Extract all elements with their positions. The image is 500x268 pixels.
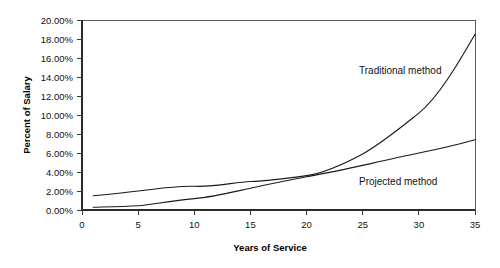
series-label-projected: Projected method	[359, 176, 437, 187]
x-tick-label: 35	[470, 219, 481, 230]
y-tick-label: 14.00%	[41, 72, 74, 83]
y-axis-tick-labels: 20.00% 18.00% 16.00% 14.00% 12.00% 10.00…	[41, 15, 74, 216]
line-chart: 20.00% 18.00% 16.00% 14.00% 12.00% 10.00…	[0, 0, 500, 268]
y-tick-label: 8.00%	[46, 129, 73, 140]
chart-container: 20.00% 18.00% 16.00% 14.00% 12.00% 10.00…	[0, 0, 500, 268]
y-tick-label: 2.00%	[46, 186, 73, 197]
y-tick-label: 0.00%	[46, 205, 73, 216]
y-tick-label: 20.00%	[41, 15, 74, 26]
x-tick-label: 20	[301, 219, 312, 230]
x-tick-label: 25	[357, 219, 368, 230]
series-line-traditional	[93, 34, 475, 196]
y-axis-title: Percent of Salary	[21, 75, 32, 153]
x-tick-label: 0	[79, 219, 84, 230]
y-axis-ticks	[77, 20, 82, 210]
x-axis-ticks	[82, 210, 475, 215]
y-tick-label: 12.00%	[41, 91, 74, 102]
x-tick-label: 10	[189, 219, 200, 230]
y-tick-label: 10.00%	[41, 110, 74, 121]
y-tick-label: 4.00%	[46, 167, 73, 178]
x-tick-label: 15	[245, 219, 256, 230]
y-tick-label: 16.00%	[41, 53, 74, 64]
series-label-traditional: Traditional method	[359, 65, 441, 76]
x-tick-label: 5	[135, 219, 140, 230]
x-axis-tick-labels: 0 5 10 15 20 25 30 35	[79, 219, 480, 230]
x-axis-title: Years of Service	[233, 242, 306, 253]
series-line-projected	[93, 140, 475, 208]
y-tick-label: 6.00%	[46, 148, 73, 159]
x-tick-label: 30	[414, 219, 425, 230]
y-tick-label: 18.00%	[41, 34, 74, 45]
